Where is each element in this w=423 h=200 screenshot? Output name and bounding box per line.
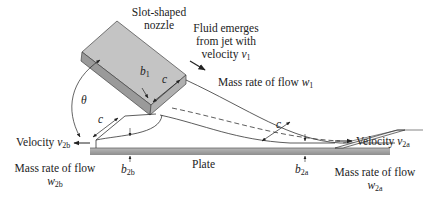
theta-label: θ: [81, 94, 87, 107]
c-label-right: c: [276, 118, 281, 131]
velocity-2b-label: Velocity v2b: [16, 136, 70, 149]
mass-flow-1-label: Mass rate of flow w1: [218, 76, 313, 89]
b2b-label: b2b: [121, 163, 135, 176]
mass-flow-2a-label: Mass rate of flow w2a: [330, 166, 420, 192]
plate-label: Plate: [192, 158, 215, 171]
slot-nozzle: [81, 21, 186, 115]
jet-stream-left: [96, 114, 162, 148]
b1-label: b1: [140, 65, 150, 78]
plate: [90, 148, 390, 155]
mass-flow-2b-label: Mass rate of flow w2b: [10, 162, 100, 188]
c-label-left: c: [98, 113, 103, 126]
c-label-nozzle: c: [162, 73, 167, 86]
velocity-2a-label: Velocity v2a: [356, 135, 410, 148]
nozzle-label: Slot-shaped nozzle: [127, 6, 191, 32]
b2a-label: b2a: [295, 163, 308, 176]
jet-label: Fluid emerges from jet with velocity v1: [186, 22, 266, 61]
